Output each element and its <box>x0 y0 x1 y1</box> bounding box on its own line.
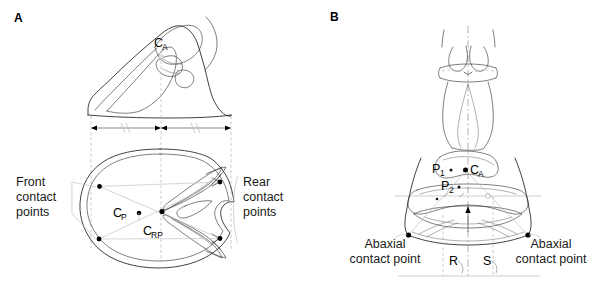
hoof-contact-point-figure: A C A <box>0 0 605 284</box>
contact-point-rear-lower <box>218 236 223 241</box>
p2-reference-hollow-marker <box>486 194 491 199</box>
abaxial-right-line-1: Abaxial <box>531 237 572 251</box>
front-contact-points-line-2: contact <box>16 190 57 204</box>
label-p2-sub: 2 <box>449 185 454 195</box>
centroid-crp-marker <box>159 209 164 214</box>
rear-contact-points-line-2: contact <box>243 190 284 204</box>
contact-point-front-upper <box>97 184 102 189</box>
label-ca-lateral-sub: A <box>162 42 168 52</box>
figure-root: A C A <box>0 0 605 284</box>
front-contact-points-line-1: Front <box>16 175 46 189</box>
contact-point-front-lower <box>97 237 102 242</box>
label-cp-sub: P <box>121 212 127 222</box>
centroid-ca-marker-frontal <box>463 168 468 173</box>
abaxial-left-line-1: Abaxial <box>365 237 406 251</box>
label-ca-frontal-sub: A <box>478 169 484 179</box>
contact-point-rear-upper <box>218 180 223 185</box>
p1-marker-dot <box>450 169 453 172</box>
abaxial-left-line-2: contact point <box>350 252 421 266</box>
p2-internal-dot-left <box>436 198 439 201</box>
panel-a-letter: A <box>14 11 23 25</box>
segment-label-r: R <box>449 254 458 268</box>
front-contact-points-line-3: points <box>16 205 49 219</box>
abaxial-right-line-2: contact point <box>516 252 587 266</box>
label-crp-sub: RP <box>151 230 163 240</box>
panel-b-letter: B <box>330 10 339 24</box>
segment-label-s: S <box>483 254 491 268</box>
rear-contact-points-line-3: points <box>243 205 276 219</box>
p2-marker-dot <box>458 186 461 189</box>
label-p1-sub: 1 <box>440 168 445 178</box>
rear-contact-points-line-1: Rear <box>243 175 270 189</box>
